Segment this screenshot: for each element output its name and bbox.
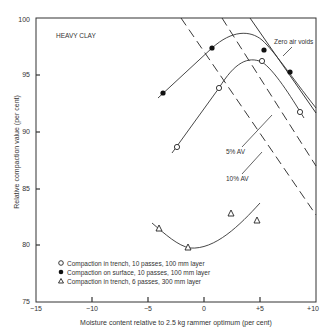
triangle-marker [228,210,234,216]
x-axis [92,297,260,302]
av10-line [181,18,316,215]
legend-filled-circle-icon [59,270,64,275]
filled-circle-marker [209,45,214,50]
open-circle-marker [216,85,221,90]
x-tick-label: +10 [307,305,319,312]
triangle-marker [254,217,260,223]
filled-circle-marker [261,47,266,52]
legend-item: Compaction in trench, 10 passes, 100 mm … [67,260,205,268]
av10-arrow [242,152,262,174]
av5-arrow [242,115,272,147]
x-tick-label: −5 [144,305,152,312]
series-trench-100-markers [174,58,302,149]
x-tick-labels: −15 −10 −5 0 +5 +10 [30,305,319,312]
trench-300-curve [152,203,260,248]
y-tick-label: 80 [22,241,30,248]
legend-triangle-icon [59,279,64,284]
legend-open-circle-icon [59,261,64,266]
series-surface-markers [160,45,292,95]
open-circle-marker [297,109,302,114]
y-tick-label: 75 [22,298,30,305]
panel-label: HEAVY CLAY [56,32,96,39]
x-axis-title: Moisture content relative to 2.5 kg ramm… [80,319,272,327]
air-void-lines [181,18,316,215]
trench-100-curve [172,60,304,153]
series-trench-300-markers [156,210,260,250]
x-tick-label: −15 [30,305,42,312]
compaction-chart: 75 80 85 90 95 100 −15 −10 −5 0 +5 +10 M… [0,0,329,334]
zero-air-voids-line [250,18,316,113]
x-tick-label: +5 [256,305,264,312]
open-circle-marker [174,144,179,149]
zav-arrow [283,47,292,56]
x-tick-label: 0 [202,305,206,312]
av10-label: 10% AV [226,175,249,182]
y-axis [36,75,40,245]
legend-item: Compaction on surface, 10 passes, 100 mm… [67,269,211,277]
y-tick-label: 85 [22,185,30,192]
legend-item: Compaction in trench, 6 passes, 300 mm l… [67,278,202,286]
filled-circle-marker [287,69,292,74]
open-circle-marker [259,58,264,63]
y-tick-label: 90 [22,128,30,135]
filled-circle-marker [160,90,165,95]
y-axis-title: Relative compaction value (per cent) [13,95,21,209]
triangle-marker [156,225,162,231]
y-tick-label: 95 [22,71,30,78]
x-tick-label: −10 [86,305,98,312]
legend: Compaction in trench, 10 passes, 100 mm … [59,260,211,286]
av5-label: 5% AV [226,148,246,155]
y-tick-labels: 75 80 85 90 95 100 [18,16,30,305]
y-tick-label: 100 [18,16,30,23]
zero-air-voids-label: Zero air voids [274,38,314,45]
